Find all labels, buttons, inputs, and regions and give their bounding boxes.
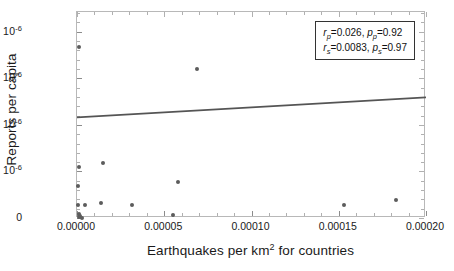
spearman-r-value: =0.0083, — [330, 42, 369, 53]
y-tick-multiplier: × 10 — [0, 118, 15, 130]
y-tick-label-2: 4. × 10-6 — [0, 118, 22, 130]
x-axis-top-tick — [426, 12, 427, 17]
y-tick-multiplier: × 10 — [0, 164, 15, 176]
x-tick-label-3: 0.00015 — [319, 220, 357, 232]
x-axis-title-tail: for countries — [275, 243, 354, 258]
scatter-plot-figure: Reports per capita 0 2. × 10-6 4. × 10-6… — [0, 0, 454, 271]
y-tick-exponent: -6 — [15, 70, 22, 79]
pearson-r-value: =0.026, — [331, 27, 365, 38]
x-axis-title-base: Earthquakes per km — [147, 243, 270, 258]
y-tick-label-3: 6. × 10-6 — [0, 71, 22, 83]
y-tick-multiplier: × 10 — [0, 25, 15, 37]
y-axis-major-tick — [77, 218, 82, 219]
plot-area: rp=0.026, pp=0.92 rs=0.0083, ps=0.97 — [76, 11, 425, 217]
y-tick-multiplier: × 10 — [0, 71, 15, 83]
spearman-p-value: =0.97 — [382, 42, 407, 53]
x-tick-label-2: 0.00010 — [232, 220, 270, 232]
pearson-p-value: =0.92 — [377, 27, 402, 38]
y-tick-exponent: -6 — [15, 163, 22, 172]
x-tick-label-4: 0.00020 — [406, 220, 444, 232]
x-axis-title: Earthquakes per km2 for countries — [76, 243, 425, 258]
x-tick-label-1: 0.00005 — [144, 220, 182, 232]
y-tick-label-4: 8. × 10-6 — [0, 25, 22, 37]
y-tick-exponent: -6 — [15, 116, 22, 125]
y-tick-label-1: 2. × 10-6 — [0, 164, 22, 176]
statistics-legend: rp=0.026, pp=0.92 rs=0.0083, ps=0.97 — [315, 21, 415, 60]
legend-line-spearman: rs=0.0083, ps=0.97 — [323, 41, 407, 56]
y-tick-label-0: 0 — [16, 211, 22, 223]
y-tick-exponent: -6 — [15, 23, 22, 32]
regression-line — [77, 97, 426, 117]
y-axis-right-tick — [419, 218, 424, 219]
x-axis-major-tick — [426, 211, 427, 216]
x-tick-label-0: 0.00000 — [57, 220, 95, 232]
legend-line-pearson: rp=0.026, pp=0.92 — [323, 26, 407, 41]
